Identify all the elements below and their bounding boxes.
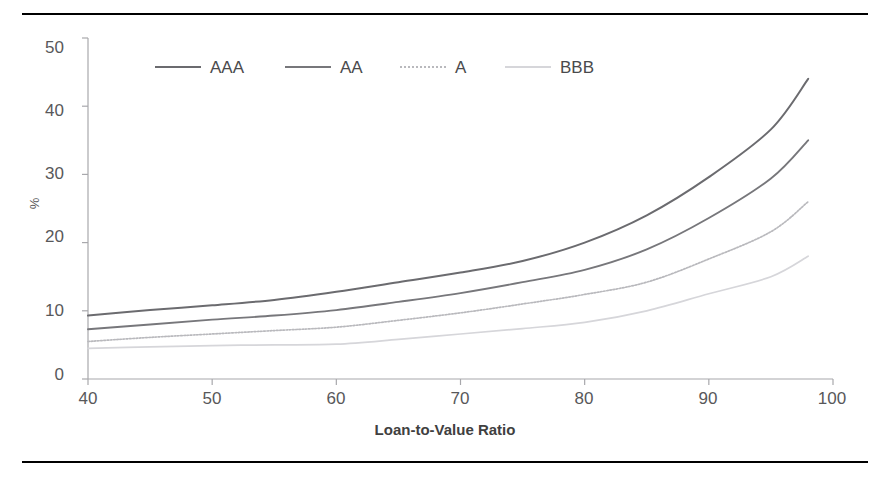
series-line-aaa (88, 79, 808, 316)
legend-label-aa: AA (340, 59, 363, 76)
xtick-label-100: 100 (807, 389, 857, 409)
ytick-label-10: 10 (20, 301, 64, 321)
legend-label-aaa: AAA (210, 59, 244, 76)
figure-container: 50 40 30 20 10 0 % 40 50 60 70 80 90 100… (0, 0, 890, 483)
series-group (88, 79, 808, 348)
xtick-label-90: 90 (683, 389, 733, 409)
xtick-label-70: 70 (435, 389, 485, 409)
legend-item-a[interactable]: A (400, 55, 466, 79)
legend-item-aaa[interactable]: AAA (155, 55, 244, 79)
legend-item-bbb[interactable]: BBB (505, 55, 594, 79)
ytick-label-0: 0 (20, 365, 64, 385)
ytick-label-30: 30 (20, 164, 64, 184)
ytick-label-50: 50 (20, 38, 64, 58)
series-line-aa (88, 140, 808, 329)
legend-label-a: A (455, 59, 466, 76)
ytick-label-20: 20 (20, 227, 64, 247)
legend-swatch-aaa (155, 66, 201, 68)
legend-swatch-aa (285, 66, 331, 68)
xtick-label-40: 40 (63, 389, 113, 409)
xtick-label-50: 50 (187, 389, 237, 409)
xtick-label-60: 60 (311, 389, 361, 409)
x-axis-title: Loan-to-Value Ratio (0, 421, 890, 438)
legend-label-bbb: BBB (560, 59, 594, 76)
legend-swatch-bbb (505, 66, 551, 68)
legend-swatch-a (400, 66, 446, 68)
ytick-label-40: 40 (20, 101, 64, 121)
xtick-label-80: 80 (559, 389, 609, 409)
y-axis-title: % (27, 184, 42, 224)
legend-item-aa[interactable]: AA (285, 55, 363, 79)
